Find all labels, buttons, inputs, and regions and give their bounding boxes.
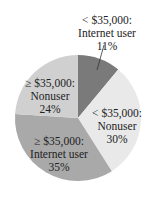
label-line2: Internet user: [30, 148, 88, 160]
label-pct: 30%: [106, 133, 128, 145]
label-under35k-internet-user: < $35,000: Internet user 11%: [78, 14, 136, 52]
label-line1: ≥ $35,000:: [34, 135, 84, 148]
label-line2: Nonuser: [98, 120, 137, 132]
pie-chart: < $35,000: Internet user 11% < $35,000: …: [0, 0, 149, 204]
label-line2: Nonuser: [31, 90, 70, 102]
label-pct: 24%: [39, 103, 61, 115]
label-pct: 11%: [97, 40, 118, 52]
label-pct: 35%: [48, 161, 70, 173]
label-line1: ≥ $35,000:: [25, 77, 75, 90]
label-line1: < $35,000:: [82, 14, 132, 27]
label-line1: < $35,000:: [92, 107, 142, 120]
label-line2: Internet user: [78, 27, 136, 39]
